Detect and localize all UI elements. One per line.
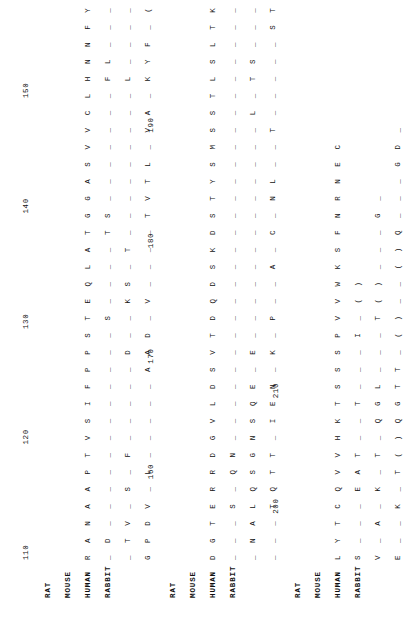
alignment-row-rat: RAT R A N A A P T V S I F P P S T E Q L … <box>38 0 58 622</box>
alignment-row-rabbit: RABBIT E _ _ K _ T ( ) Q G T T _ ( ) _ _… <box>348 0 368 622</box>
sequence-track-mouse: _ D _ _ _ _ _ _ _ _ _ _ _ _ S _ _ _ _ T … <box>58 0 78 560</box>
sequence-track-mouse: S _ _ _ E A T _ _ T _ _ _ I _ ( ) <box>308 0 328 560</box>
alignment-block-3: 200 210 RAT L Y T C Q V V H K T S S S P … <box>268 0 368 622</box>
alignment-block-1: 110 120 130 140 150 RAT R A N A A P T V … <box>18 0 118 622</box>
species-label-rabbit: RABBIT <box>229 560 237 622</box>
alignment-row-rabbit: RABBIT _ _ _ T Q T T _ I E N _ K _ P _ _… <box>223 0 243 622</box>
species-label-human: HUMAN <box>334 560 342 622</box>
species-label-rat: RAT <box>44 560 52 622</box>
ruler-track-2: 160 170 180 190 <box>145 0 161 560</box>
sequence-track-human: _ N A L Q S G N S Q E _ E _ _ _ _ _ _ _ … <box>203 0 223 560</box>
ruler-tick: 200 <box>272 499 280 514</box>
sequence-track-human: V _ A _ K _ T _ Q G L _ _ _ T ( ) _ _ _ … <box>328 0 348 560</box>
alignment-row-human: HUMAN V _ A _ K _ T _ Q G L _ _ _ T ( ) … <box>328 0 348 622</box>
species-label-rabbit: RABBIT <box>354 560 362 622</box>
species-label-rat: RAT <box>169 560 177 622</box>
species-label-human: HUMAN <box>209 560 217 622</box>
ruler-track-3: 200 210 <box>270 0 286 560</box>
ruler-tick: 110 <box>22 545 30 560</box>
sequence-track-rabbit: _ _ _ T Q T T _ I E N _ K _ P _ _ A _ C … <box>223 0 243 560</box>
ruler-tick: 210 <box>272 383 280 398</box>
ruler-tick: 170 <box>147 348 155 363</box>
alignment-row-mouse: MOUSE _ D _ _ _ _ _ _ _ _ _ _ _ _ S _ _ … <box>58 0 78 622</box>
alignment-row-human: HUMAN _ N A L Q S G N S Q E _ E _ _ _ _ … <box>203 0 223 622</box>
species-label-rabbit: RABBIT <box>104 560 112 622</box>
alignment-row-mouse: MOUSE _ _ _ S _ Q N _ _ _ _ _ _ _ _ _ _ … <box>183 0 203 622</box>
alignment-row-rat: RAT D G T E R R D G V L D S V T D Q D S … <box>163 0 183 622</box>
ruler-tick: 180 <box>147 233 155 248</box>
sequence-track-human: _ T V _ S _ F _ _ _ _ _ D _ _ K S _ T _ … <box>78 0 98 560</box>
ruler-tick: 140 <box>22 198 30 213</box>
species-label-mouse: MOUSE <box>189 560 197 622</box>
residue-ruler-3: 200 210 <box>268 0 288 622</box>
sequence-track-rat: D G T E R R D G V L D S V T D Q D S K D … <box>163 0 183 560</box>
residue-ruler-1: 110 120 130 140 150 <box>18 0 38 622</box>
sequence-text: E _ _ K _ T ( ) Q G T T _ ( ) _ _ ( ) Q … <box>388 0 407 560</box>
sequence-track-mouse: _ _ _ S _ Q N _ _ _ _ _ _ _ _ _ _ _ _ _ … <box>183 0 203 560</box>
alignment-block-2: 160 170 180 190 RAT D G T E R R D G V L … <box>143 0 243 622</box>
ruler-tick: 160 <box>147 464 155 479</box>
ruler-tick: 150 <box>22 83 30 98</box>
alignment-row-rabbit: RABBIT G P D V _ L _ _ _ _ _ A A D _ V _… <box>98 0 118 622</box>
residue-ruler-2: 160 170 180 190 <box>143 0 163 622</box>
sequence-track-rat: R A N A A P T V S I F P P S T E Q L A T … <box>38 0 58 560</box>
species-label-rat: RAT <box>294 560 302 622</box>
alignment-row-rat: RAT L Y T C Q V V H K T S S S P V V W K … <box>288 0 308 622</box>
sequence-track-rabbit: E _ _ K _ T ( ) Q G T T _ ( ) _ _ ( ) Q … <box>348 0 368 560</box>
species-label-mouse: MOUSE <box>314 560 322 622</box>
ruler-tick: 190 <box>147 117 155 132</box>
sequence-track-rabbit: G P D V _ L _ _ _ _ _ A A D _ V _ _ _ _ … <box>98 0 118 560</box>
species-label-human: HUMAN <box>84 560 92 622</box>
sequence-track-rat: L Y T C Q V V H K T S S S P V V W K S F … <box>288 0 308 560</box>
alignment-row-mouse: MOUSE S _ _ _ E A T _ _ T _ _ _ I _ ( ) <box>308 0 328 622</box>
ruler-tick: 130 <box>22 314 30 329</box>
ruler-tick: 120 <box>22 429 30 444</box>
species-label-mouse: MOUSE <box>64 560 72 622</box>
ruler-track-1: 110 120 130 140 150 <box>20 0 36 560</box>
alignment-row-human: HUMAN _ T V _ S _ F _ _ _ _ _ D _ _ K S … <box>78 0 98 622</box>
